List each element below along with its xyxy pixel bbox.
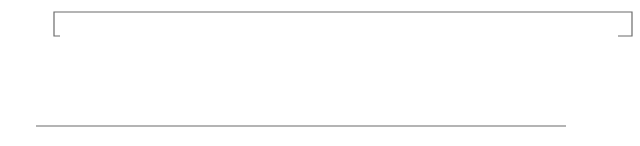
feedback-wire — [54, 12, 632, 36]
ring-counter-diagram — [0, 0, 640, 146]
